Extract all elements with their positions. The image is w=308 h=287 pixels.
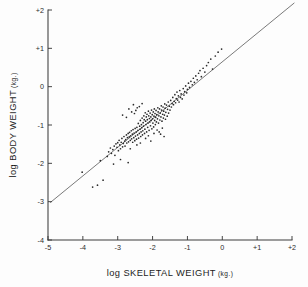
data-point xyxy=(143,119,145,121)
data-point xyxy=(127,133,129,135)
data-point xyxy=(126,142,128,144)
data-point xyxy=(155,110,157,112)
data-point xyxy=(170,100,172,102)
data-point xyxy=(92,186,94,188)
data-point xyxy=(111,153,113,155)
data-point xyxy=(138,133,140,135)
data-point xyxy=(207,62,209,64)
data-point xyxy=(148,130,150,132)
data-point xyxy=(150,116,152,118)
data-point xyxy=(113,163,115,165)
data-point xyxy=(123,136,125,138)
data-point xyxy=(135,131,137,133)
data-point xyxy=(178,101,180,103)
x-tick-label: -4 xyxy=(80,243,86,252)
data-point xyxy=(141,103,143,105)
data-point xyxy=(173,104,175,106)
data-point xyxy=(199,70,201,72)
data-point xyxy=(144,133,146,135)
data-point xyxy=(117,142,119,144)
data-point xyxy=(176,91,178,93)
data-point xyxy=(139,125,141,127)
data-point xyxy=(114,154,116,156)
data-point xyxy=(137,130,139,132)
data-point xyxy=(142,134,144,136)
data-point xyxy=(146,131,148,133)
data-point xyxy=(171,103,173,105)
data-point xyxy=(112,149,114,151)
data-point xyxy=(159,119,161,121)
data-point xyxy=(142,122,144,124)
data-point xyxy=(159,112,161,114)
data-point xyxy=(185,85,187,87)
data-point xyxy=(141,117,143,119)
y-axis-ticks: -4-3-2-10+1+2 xyxy=(36,6,52,245)
data-point xyxy=(122,114,124,116)
data-point xyxy=(142,130,144,132)
y-axis-title: log BODY WEIGHT(kg.) xyxy=(8,72,18,177)
data-point xyxy=(161,127,163,129)
data-point xyxy=(153,115,155,117)
data-point xyxy=(166,104,168,106)
data-point xyxy=(206,65,208,67)
data-point xyxy=(138,106,140,108)
data-point xyxy=(146,119,148,121)
data-point xyxy=(154,120,156,122)
data-point xyxy=(122,146,124,148)
data-point xyxy=(204,71,206,73)
data-point xyxy=(156,129,158,131)
data-point xyxy=(162,113,164,115)
data-point xyxy=(125,139,127,141)
y-tick-label: -2 xyxy=(38,159,44,168)
data-point xyxy=(138,137,140,139)
data-point xyxy=(113,145,115,147)
data-point xyxy=(163,110,165,112)
data-point xyxy=(155,116,157,118)
data-point xyxy=(159,108,161,110)
data-point xyxy=(150,125,152,127)
data-point xyxy=(141,124,143,126)
data-point xyxy=(137,134,139,136)
data-point xyxy=(97,184,99,186)
data-point xyxy=(148,135,150,137)
data-point xyxy=(136,107,138,109)
data-point xyxy=(164,107,166,109)
data-point xyxy=(144,128,146,130)
data-point xyxy=(157,107,159,109)
data-point xyxy=(135,135,137,137)
data-point xyxy=(121,138,123,140)
data-point xyxy=(167,108,169,110)
data-point xyxy=(161,120,163,122)
data-point xyxy=(127,137,129,139)
data-point xyxy=(129,139,131,141)
x-axis-ticks: -5-4-3-2-10+1+2 xyxy=(45,236,296,252)
x-tick-label: 0 xyxy=(220,243,224,252)
data-point xyxy=(188,82,190,84)
data-point xyxy=(171,106,173,108)
y-tick-label: -4 xyxy=(38,236,44,245)
data-point xyxy=(151,109,153,111)
data-point xyxy=(116,146,118,148)
data-point xyxy=(202,67,204,69)
data-point xyxy=(106,156,108,158)
data-point xyxy=(144,112,146,114)
data-point xyxy=(128,108,130,110)
data-point xyxy=(160,133,162,135)
data-point xyxy=(118,139,120,141)
data-point xyxy=(151,114,153,116)
data-point xyxy=(102,179,104,181)
data-point xyxy=(108,151,110,153)
y-tick-label: +1 xyxy=(36,44,44,53)
data-point xyxy=(132,141,134,143)
data-point xyxy=(135,110,137,112)
data-point xyxy=(136,126,138,128)
data-point xyxy=(178,95,180,97)
data-point xyxy=(129,131,131,133)
data-point xyxy=(186,92,188,94)
data-point xyxy=(156,114,158,116)
data-point xyxy=(137,123,139,125)
x-axis-title: log SKELETAL WEIGHT(kg.) xyxy=(107,268,234,278)
data-point xyxy=(165,118,167,120)
data-point xyxy=(183,94,185,96)
data-point xyxy=(120,148,122,150)
